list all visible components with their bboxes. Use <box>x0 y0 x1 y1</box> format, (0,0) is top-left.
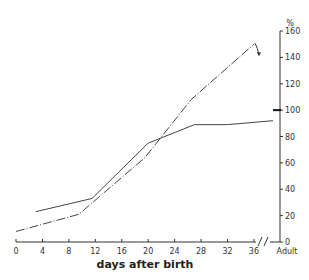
y-axis-unit-label: % <box>286 19 294 28</box>
y-tick-label: 0 <box>285 238 290 247</box>
x-tick-label: 36 <box>249 247 259 256</box>
x-tick-label: 0 <box>13 247 18 256</box>
series-group <box>16 43 273 231</box>
x-tick-label: 8 <box>66 247 71 256</box>
y-tick-label: 20 <box>285 212 295 221</box>
x-tick-label: Adult <box>277 247 298 256</box>
x-tick-label: 12 <box>90 247 100 256</box>
x-tick-label: 28 <box>196 247 206 256</box>
x-axis-label: days after birth <box>97 258 194 271</box>
y-tick-label: 140 <box>285 53 300 62</box>
y-tick-label: 160 <box>285 27 300 36</box>
y-tick-label: 60 <box>285 159 295 168</box>
axis-break-mark <box>264 237 268 246</box>
y-tick-label: 100 <box>285 106 300 115</box>
x-tick-label: 24 <box>170 247 180 256</box>
y-tick-label: 80 <box>285 133 295 142</box>
arrowhead-icon <box>257 52 261 56</box>
x-tick-label: 20 <box>143 247 153 256</box>
y-tick-label: 120 <box>285 80 300 89</box>
x-tick-label: 32 <box>222 247 232 256</box>
series-solid <box>36 121 273 212</box>
x-tick-label: 4 <box>40 247 45 256</box>
line-chart: 04812162024283236Adult 02040608010012014… <box>0 0 309 280</box>
x-axis: 04812162024283236Adult <box>13 237 297 256</box>
x-tick-label: 16 <box>117 247 127 256</box>
y-axis: 020406080100120140160 <box>273 27 300 247</box>
y-tick-label: 40 <box>285 185 295 194</box>
series-dash-dot <box>16 44 254 231</box>
axis-break-mark <box>258 237 262 246</box>
